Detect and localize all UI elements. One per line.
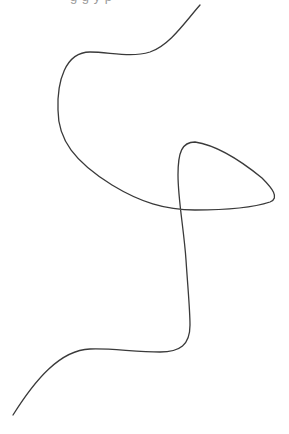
freehand-curve <box>13 5 275 415</box>
drawing-canvas <box>0 0 289 434</box>
